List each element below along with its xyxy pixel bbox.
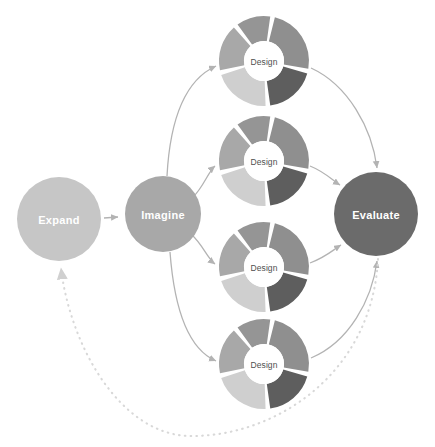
edge-imagine-to-design-1 [167, 66, 216, 176]
edge-design-3-to-evaluate [310, 245, 341, 263]
design-label-4: Design [250, 360, 277, 370]
edge-imagine-to-design-3 [192, 235, 215, 264]
edge-design-1-to-evaluate [311, 68, 377, 168]
design-label-1: Design [250, 57, 277, 67]
edge-design-4-to-evaluate [311, 261, 377, 358]
edge-imagine-to-design-2 [193, 166, 215, 197]
edges-layer [61, 66, 378, 436]
design-node-3[interactable]: Design [219, 222, 309, 312]
expand-label: Expand [38, 214, 80, 226]
process-loop-diagram: Design Design Design [0, 0, 435, 447]
edge-design-2-to-evaluate [310, 166, 340, 185]
design-label-3: Design [250, 263, 277, 273]
design-node-1[interactable]: Design [219, 16, 309, 106]
edge-expand-to-imagine [104, 217, 118, 218]
edge-imagine-to-design-4 [170, 252, 216, 361]
node-evaluate[interactable]: Evaluate [334, 172, 418, 256]
node-imagine[interactable]: Imagine [125, 176, 201, 252]
diagram-canvas: Design Design Design [0, 0, 435, 447]
imagine-label: Imagine [141, 209, 185, 221]
design-node-2[interactable]: Design [219, 116, 309, 206]
design-node-4[interactable]: Design [219, 319, 309, 409]
design-label-2: Design [250, 157, 277, 167]
evaluate-label: Evaluate [352, 209, 400, 221]
node-expand[interactable]: Expand [17, 177, 101, 261]
